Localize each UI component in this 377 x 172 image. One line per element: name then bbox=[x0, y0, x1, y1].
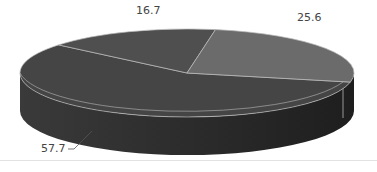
pie-slice-25-6[interactable] bbox=[187, 30, 354, 83]
data-label-57-7: 57.7 bbox=[41, 142, 66, 155]
data-label-16-7: 16.7 bbox=[136, 4, 161, 17]
data-label-25-6: 25.6 bbox=[297, 11, 322, 24]
